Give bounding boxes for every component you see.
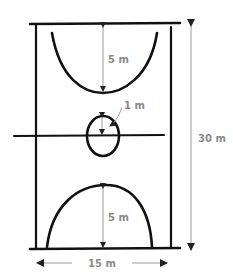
court-outline [14,23,180,249]
court-length-label: 30 m [198,134,226,144]
court-diagram: 5 m 1 m 30 m 5 m 15 m [0,0,233,280]
top-goal-area-arc [52,33,157,93]
bottom-boundary-line [30,248,180,249]
top-boundary-line [30,23,180,24]
center-line [14,135,164,136]
center-radius-label: 1 m [124,101,145,111]
court-width-label: 15 m [88,259,116,269]
bottom-arc-depth-label: 5 m [108,213,129,223]
top-arc-depth-label: 5 m [108,55,129,65]
bottom-goal-area-arc [47,185,152,247]
